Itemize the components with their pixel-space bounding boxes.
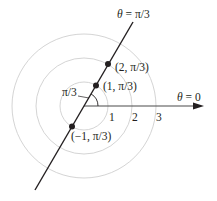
point-label-1: (1, π/3) <box>103 80 137 93</box>
point-2-pi-over-3 <box>105 61 111 67</box>
point-neg1-pi-over-3 <box>69 124 75 130</box>
angle-arc <box>91 94 98 106</box>
point-1-pi-over-3 <box>93 83 99 89</box>
angle-leader-line <box>78 96 89 98</box>
arrow-head-icon <box>193 103 204 110</box>
polar-diagram: θ = π/3 θ = 0 π/3 (2, π/3) (1, π/3) (−1,… <box>0 0 217 201</box>
tick-label-2: 2 <box>132 111 138 123</box>
point-label-neg1: (−1, π/3) <box>71 130 112 143</box>
tick-label-3: 3 <box>156 111 162 123</box>
ray-label: θ = π/3 <box>117 8 150 20</box>
point-label-2: (2, π/3) <box>115 61 149 74</box>
axis-label: θ = 0 <box>177 91 201 103</box>
angle-label: π/3 <box>62 86 77 98</box>
tick-label-1: 1 <box>109 111 115 123</box>
